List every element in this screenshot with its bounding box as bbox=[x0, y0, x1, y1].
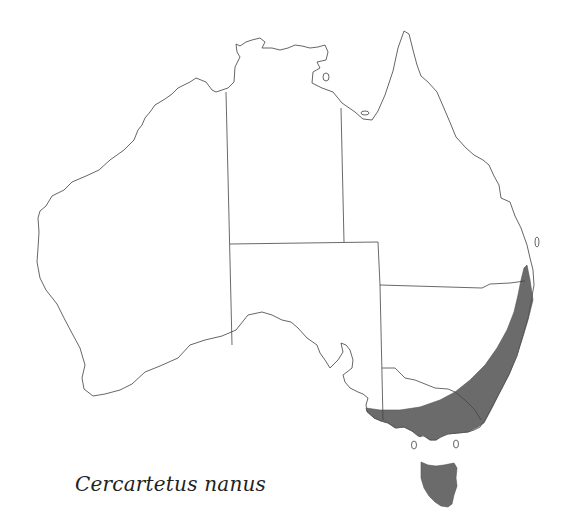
coastline bbox=[37, 31, 534, 440]
border-qld-nsw bbox=[380, 281, 525, 288]
border-nt-sa bbox=[230, 242, 378, 244]
range-mainland bbox=[366, 265, 533, 440]
border-wa bbox=[226, 92, 232, 345]
island-king bbox=[412, 441, 417, 449]
species-caption: Cercartetus nanus bbox=[75, 472, 266, 496]
border-nt-qld bbox=[341, 108, 344, 242]
range-tasmania bbox=[421, 462, 457, 507]
island-groote bbox=[361, 111, 369, 115]
island-melville bbox=[323, 73, 329, 81]
island-fraser bbox=[535, 237, 539, 247]
australia-map bbox=[0, 0, 565, 532]
border-sa-east bbox=[378, 242, 383, 420]
island-flinders bbox=[454, 440, 459, 448]
